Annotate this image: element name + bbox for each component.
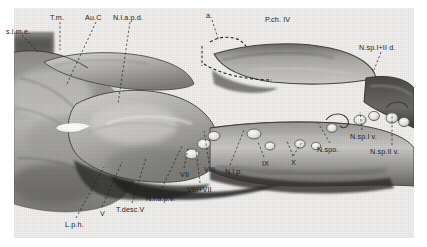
- label-t-desc-v: T.desc.V: [116, 206, 145, 213]
- label-a: a.: [206, 12, 212, 19]
- label-n-sp-ii-v: N.sp.II v.: [370, 148, 399, 155]
- label-n-sp-i-ii-d: N.sp.I+II d.: [359, 44, 395, 51]
- label-t-m: T.m.: [50, 14, 64, 21]
- label-ix: IX: [262, 160, 269, 167]
- label-vii: VII: [180, 171, 189, 178]
- label-n-sp-i-v: N.sp.I v.: [350, 133, 377, 140]
- label-n-l-p: N.l.p.: [225, 168, 243, 175]
- label-l-p-h: L.p.h.: [65, 221, 84, 228]
- anatomical-figure: s.i.m.e.T.m.Au.CN.l.a.p.d.a.P.ch. IVN.sp…: [0, 0, 427, 247]
- label-viii-plus-vii: VIII+VII: [187, 186, 212, 193]
- label-x: X: [291, 159, 296, 166]
- label-v: V: [100, 210, 105, 217]
- label-viii: VIII: [204, 166, 215, 173]
- label-s-i-m-e: s.i.m.e.: [6, 28, 30, 35]
- label-p-ch-iv: P.ch. IV: [265, 16, 290, 23]
- specimen-illustration: [14, 8, 414, 238]
- label-n-l-a-p-d: N.l.a.p.d.: [113, 14, 143, 21]
- label-n-l-a-p-v: N.l.a.p.v.: [146, 195, 175, 202]
- halftone-plate: [14, 8, 414, 238]
- label-n-spo: N.spo.: [317, 146, 339, 153]
- label-au-c: Au.C: [85, 14, 101, 21]
